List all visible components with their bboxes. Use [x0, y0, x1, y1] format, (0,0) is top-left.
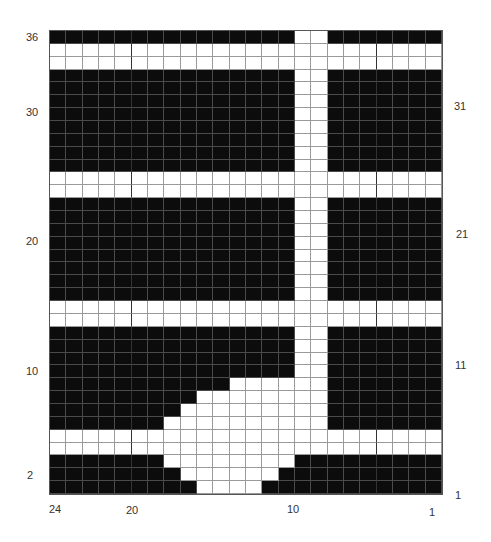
chart-cell: [66, 340, 82, 353]
chart-cell: [164, 481, 180, 494]
chart-cell: [66, 301, 82, 314]
chart-cell: [279, 327, 295, 340]
chart-cell: [262, 365, 278, 378]
chart-cell: [393, 185, 409, 198]
chart-cell: [197, 481, 213, 494]
chart-cell: [66, 378, 82, 391]
chart-cell: [344, 237, 360, 250]
chart-cell: [148, 82, 164, 95]
chart-cell: [132, 430, 148, 443]
chart-cell: [344, 82, 360, 95]
chart-cell: [262, 481, 278, 494]
chart-cell: [377, 224, 393, 237]
chart-cell: [164, 121, 180, 134]
chart-cell: [132, 57, 148, 70]
chart-cell: [295, 121, 311, 134]
chart-cell: [66, 365, 82, 378]
chart-cell: [311, 417, 327, 430]
chart-cell: [164, 250, 180, 263]
chart-cell: [360, 95, 376, 108]
chart-cell: [197, 108, 213, 121]
chart-cell: [360, 160, 376, 173]
chart-cell: [393, 121, 409, 134]
chart-cell: [50, 82, 66, 95]
chart-cell: [344, 121, 360, 134]
chart-cell: [393, 443, 409, 456]
chart-cell: [393, 378, 409, 391]
chart-cell: [181, 185, 197, 198]
chart-cell: [393, 211, 409, 224]
chart-cell: [50, 275, 66, 288]
chart-cell: [344, 185, 360, 198]
chart-cell: [262, 327, 278, 340]
chart-cell: [360, 147, 376, 160]
chart-cell: [377, 44, 393, 57]
chart-cell: [360, 134, 376, 147]
chart-cell: [132, 95, 148, 108]
chart-cell: [50, 288, 66, 301]
chart-cell: [311, 327, 327, 340]
chart-cell: [66, 211, 82, 224]
chart-cell: [181, 275, 197, 288]
chart-cell: [83, 82, 99, 95]
chart-cell: [393, 44, 409, 57]
chart-cell: [213, 82, 229, 95]
chart-cell: [181, 430, 197, 443]
chart-cell: [230, 430, 246, 443]
chart-cell: [66, 262, 82, 275]
chart-cell: [377, 288, 393, 301]
chart-cell: [115, 481, 131, 494]
chart-cell: [230, 198, 246, 211]
chart-cell: [230, 353, 246, 366]
chart-cell: [115, 250, 131, 263]
chart-cell: [181, 262, 197, 275]
chart-cell: [311, 275, 327, 288]
chart-cell: [181, 378, 197, 391]
chart-cell: [279, 211, 295, 224]
chart-cell: [360, 70, 376, 83]
chart-cell: [197, 353, 213, 366]
chart-cell: [197, 468, 213, 481]
chart-cell: [426, 134, 442, 147]
chart-cell: [213, 262, 229, 275]
chart-cell: [83, 275, 99, 288]
chart-cell: [311, 211, 327, 224]
chart-cell: [360, 82, 376, 95]
chart-cell: [279, 198, 295, 211]
chart-cell: [83, 430, 99, 443]
chart-cell: [279, 288, 295, 301]
chart-cell: [181, 327, 197, 340]
chart-cell: [197, 417, 213, 430]
chart-cell: [181, 404, 197, 417]
chart-cell: [344, 224, 360, 237]
chart-cell: [328, 430, 344, 443]
chart-cell: [311, 185, 327, 198]
chart-cell: [295, 353, 311, 366]
chart-cell: [360, 211, 376, 224]
chart-cell: [426, 365, 442, 378]
chart-cell: [377, 237, 393, 250]
chart-cell: [246, 57, 262, 70]
chart-cell: [328, 57, 344, 70]
row-label: 21: [456, 229, 468, 240]
chart-cell: [328, 262, 344, 275]
chart-cell: [246, 365, 262, 378]
chart-cell: [181, 443, 197, 456]
chart-cell: [164, 237, 180, 250]
chart-cell: [295, 443, 311, 456]
chart-cell: [311, 108, 327, 121]
chart-cell: [377, 327, 393, 340]
chart-cell: [148, 314, 164, 327]
chart-cell: [279, 134, 295, 147]
chart-cell: [311, 147, 327, 160]
chart-cell: [377, 70, 393, 83]
chart-cell: [115, 314, 131, 327]
chart-cell: [164, 378, 180, 391]
chart-cell: [181, 224, 197, 237]
chart-cell: [83, 121, 99, 134]
chart-cell: [230, 275, 246, 288]
chart-cell: [83, 468, 99, 481]
chart-cell: [246, 147, 262, 160]
chart-cell: [328, 301, 344, 314]
chart-cell: [426, 353, 442, 366]
